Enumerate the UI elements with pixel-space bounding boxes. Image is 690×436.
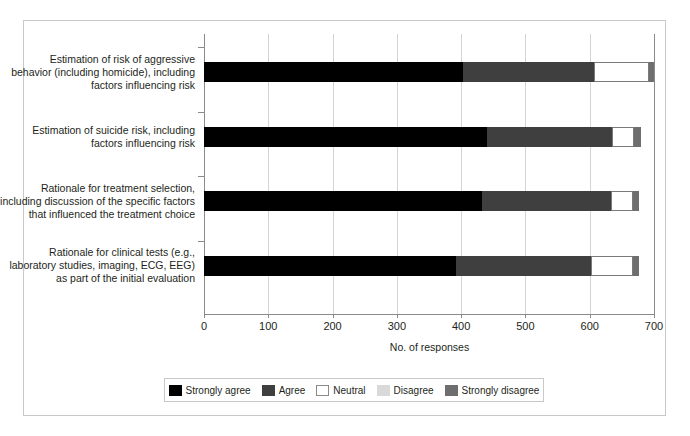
category-label-line: factors influencing risk xyxy=(0,79,195,92)
category-label-line: as part of the initial evaluation xyxy=(0,272,195,285)
category-label-line: factors influencing risk xyxy=(0,137,195,150)
category-label-line: Rationale for clinical tests (e.g., xyxy=(0,246,195,259)
legend-label: Strongly disagree xyxy=(462,385,540,396)
chart-legend: Strongly agreeAgreeNeutralDisagreeStrong… xyxy=(164,378,544,402)
gridline-700 xyxy=(654,34,655,314)
bar-segment-strongly-agree[interactable] xyxy=(204,127,487,147)
bar-segment-agree[interactable] xyxy=(456,256,591,276)
category-label-line: Rationale for treatment selection, xyxy=(0,182,195,195)
x-tick-700 xyxy=(654,314,655,318)
legend-swatch-strongly-disagree xyxy=(445,385,458,396)
legend-label: Agree xyxy=(279,385,306,396)
bar-segment-strongly-agree[interactable] xyxy=(204,62,463,82)
x-tick-label-100: 100 xyxy=(248,320,288,332)
bar-segment-strongly-agree[interactable] xyxy=(204,191,482,211)
bar-segment-agree[interactable] xyxy=(487,127,612,147)
legend-swatch-strongly-agree xyxy=(169,385,182,396)
legend-swatch-disagree xyxy=(377,385,390,396)
category-label: Estimation of suicide risk, includingfac… xyxy=(0,124,195,150)
legend-label: Strongly agree xyxy=(186,385,251,396)
category-label-line: Estimation of risk of aggressive xyxy=(0,53,195,66)
category-label: Rationale for treatment selection,includ… xyxy=(0,182,195,221)
bar-segment-neutral[interactable] xyxy=(594,62,649,82)
bar-segment-strongly-disagree[interactable] xyxy=(649,62,654,82)
bar-segment-neutral[interactable] xyxy=(612,127,634,147)
x-axis-line xyxy=(204,314,655,315)
bar-segment-strongly-disagree[interactable] xyxy=(633,191,639,211)
legend-item-strongly-agree[interactable]: Strongly agree xyxy=(169,385,251,396)
category-label-line: that influenced the treatment choice xyxy=(0,208,195,221)
legend-swatch-agree xyxy=(262,385,275,396)
x-tick-label-700: 700 xyxy=(634,320,674,332)
legend-item-agree[interactable]: Agree xyxy=(262,385,306,396)
x-tick-label-600: 600 xyxy=(570,320,610,332)
bar-segment-strongly-disagree[interactable] xyxy=(633,256,639,276)
figure-frame: Estimation of risk of aggressivebehavior… xyxy=(23,20,666,416)
category-label-line: Estimation of suicide risk, including xyxy=(0,124,195,137)
legend-item-disagree[interactable]: Disagree xyxy=(377,385,434,396)
bar-segment-strongly-agree[interactable] xyxy=(204,256,456,276)
x-tick-0 xyxy=(204,314,205,318)
x-axis-title: No. of responses xyxy=(204,341,655,353)
bar-segment-neutral[interactable] xyxy=(611,191,633,211)
category-label: Rationale for clinical tests (e.g.,labor… xyxy=(0,246,195,285)
x-tick-label-400: 400 xyxy=(441,320,481,332)
bar-segment-neutral[interactable] xyxy=(591,256,633,276)
x-tick-label-200: 200 xyxy=(313,320,353,332)
x-tick-400 xyxy=(461,314,462,318)
x-tick-200 xyxy=(333,314,334,318)
x-tick-label-500: 500 xyxy=(505,320,545,332)
plot-area xyxy=(204,34,654,314)
x-tick-100 xyxy=(268,314,269,318)
x-tick-label-300: 300 xyxy=(377,320,417,332)
category-label-line: laboratory studies, imaging, ECG, EEG) xyxy=(0,259,195,272)
legend-item-strongly-disagree[interactable]: Strongly disagree xyxy=(445,385,540,396)
category-label: Estimation of risk of aggressivebehavior… xyxy=(0,53,195,92)
legend-label: Neutral xyxy=(333,385,365,396)
x-tick-500 xyxy=(525,314,526,318)
category-label-line: including discussion of the specific fac… xyxy=(0,195,195,208)
bar-segment-agree[interactable] xyxy=(482,191,611,211)
x-tick-600 xyxy=(590,314,591,318)
bar-segment-strongly-disagree[interactable] xyxy=(634,127,641,147)
legend-item-neutral[interactable]: Neutral xyxy=(316,385,365,396)
legend-swatch-neutral xyxy=(316,385,329,396)
bar-segment-agree[interactable] xyxy=(463,62,594,82)
x-tick-label-0: 0 xyxy=(184,320,224,332)
legend-label: Disagree xyxy=(394,385,434,396)
x-tick-300 xyxy=(397,314,398,318)
category-label-line: behavior (including homicide), including xyxy=(0,66,195,79)
